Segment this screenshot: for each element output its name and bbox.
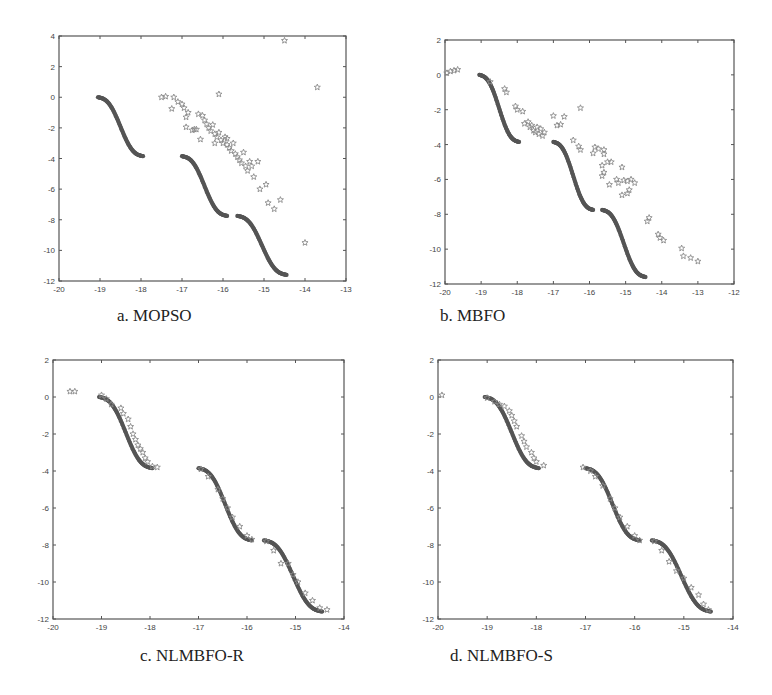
y-tick-label: -6	[427, 504, 435, 513]
x-tick-label: -19	[481, 623, 493, 632]
x-tick-label: -15	[678, 623, 690, 632]
star-marker-icon	[528, 449, 534, 455]
star-marker-icon	[519, 433, 525, 439]
star-marker-icon	[521, 438, 527, 444]
scatter-plot-d: -20-19-18-17-16-15-1420-2-4-6-8-10-12	[0, 0, 772, 695]
star-marker-icon	[696, 592, 702, 598]
solution-stars	[439, 392, 712, 612]
y-tick-label: -2	[427, 430, 435, 439]
pareto-front	[483, 395, 713, 614]
x-tick-label: -16	[629, 623, 641, 632]
x-tick-label: -18	[531, 623, 543, 632]
y-tick-label: -8	[427, 541, 435, 550]
y-tick-label: -12	[422, 615, 434, 624]
x-tick-label: -20	[432, 623, 444, 632]
plot-frame	[438, 360, 733, 619]
y-tick-label: 0	[430, 393, 435, 402]
y-tick-label: 2	[430, 356, 435, 365]
x-tick-label: -17	[580, 623, 592, 632]
star-marker-icon	[509, 412, 515, 418]
star-marker-icon	[541, 462, 547, 468]
star-marker-icon	[514, 423, 520, 429]
caption-d: d. NLMBFO-S	[450, 646, 553, 666]
star-marker-icon	[511, 418, 517, 424]
y-tick-label: -4	[427, 467, 435, 476]
star-marker-icon	[523, 444, 529, 450]
x-tick-label: -14	[727, 623, 739, 632]
y-tick-label: -10	[422, 578, 434, 587]
